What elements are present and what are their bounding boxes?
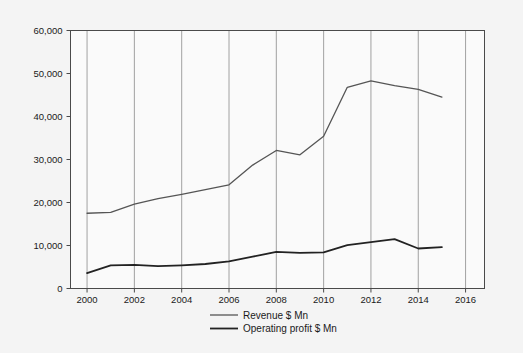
x-tick-label: 2006	[218, 294, 239, 305]
y-tick-label: 10,000	[33, 240, 62, 251]
x-tick-label: 2000	[76, 294, 97, 305]
legend-label-0: Revenue $ Mn	[243, 310, 308, 321]
x-tick-label: 2014	[408, 294, 429, 305]
y-tick-label: 40,000	[33, 111, 62, 122]
y-tick-label: 60,000	[33, 25, 62, 36]
x-tick-label: 2004	[171, 294, 192, 305]
y-tick-label: 30,000	[33, 154, 62, 165]
plot-area-background	[71, 31, 485, 289]
line-chart: 010,00020,00030,00040,00050,00060,000 20…	[0, 0, 523, 353]
chart-container: 010,00020,00030,00040,00050,00060,000 20…	[0, 0, 523, 353]
y-tick-label: 50,000	[33, 68, 62, 79]
x-tick-label: 2016	[455, 294, 476, 305]
x-tick-label: 2002	[124, 294, 145, 305]
y-tick-label: 20,000	[33, 197, 62, 208]
x-tick-label: 2012	[360, 294, 381, 305]
x-axis-tick-labels: 200020022004200620082010201220142016	[76, 294, 476, 305]
x-tick-label: 2008	[266, 294, 287, 305]
y-tick-label: 0	[57, 283, 62, 294]
x-tick-label: 2010	[313, 294, 334, 305]
legend-label-1: Operating profit $ Mn	[243, 323, 337, 334]
